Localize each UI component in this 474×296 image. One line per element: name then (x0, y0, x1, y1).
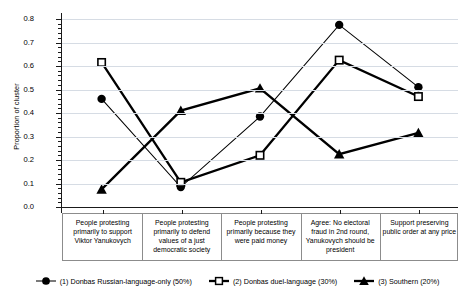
category-label-text: People protesting primarily to defend va… (145, 218, 219, 254)
x-axis-tick (103, 210, 104, 214)
category-label-text: Support preserving public order at any p… (382, 218, 456, 236)
y-axis-minor-tick (58, 169, 62, 170)
y-axis-minor-tick (58, 179, 62, 180)
y-axis-minor-tick (58, 33, 62, 34)
x-axis-category-labels: People protesting primarily to support V… (62, 213, 458, 261)
y-axis-tick (56, 43, 62, 44)
x-axis-category-label: People protesting primarily because they… (221, 214, 300, 260)
category-divider (301, 214, 302, 260)
gridline (62, 43, 458, 44)
gridline (62, 19, 458, 20)
y-axis-tick (56, 184, 62, 185)
y-axis-minor-tick (58, 155, 62, 156)
y-axis-minor-tick (58, 75, 62, 76)
legend-label: (2) Donbas duel-language (30%) (233, 277, 337, 286)
y-axis-tick-label: 0.5 (8, 86, 34, 94)
series-line (102, 25, 419, 187)
chart-container: Proportion of cluster 0.00.10.20.30.40.5… (0, 0, 474, 296)
legend-marker-icon (353, 276, 375, 286)
series-group (102, 88, 419, 189)
category-label-text: People protesting primarily because they… (224, 218, 298, 245)
gridline (62, 66, 458, 67)
y-axis-minor-tick (58, 108, 62, 109)
x-axis-line (61, 207, 458, 208)
data-point-square (177, 179, 184, 186)
y-axis-minor-tick (58, 38, 62, 39)
data-point-circle (42, 277, 50, 285)
y-axis-minor-tick (58, 24, 62, 25)
legend-item: (3) Southern (20%) (353, 276, 439, 286)
y-axis-tick (56, 137, 62, 138)
category-label-text: Agree: No electoral fraud in 2nd round, … (303, 218, 377, 254)
y-axis-tick (56, 90, 62, 91)
y-axis-minor-tick (58, 141, 62, 142)
y-axis-tick-labels: 0.00.10.20.30.40.50.60.70.8 (4, 0, 34, 296)
gridline (62, 160, 458, 161)
y-axis-tick-label: 0.0 (8, 203, 34, 211)
y-axis-tick-label: 0.4 (8, 109, 34, 117)
legend-item: (2) Donbas duel-language (30%) (208, 276, 337, 286)
data-point-triangle (255, 83, 265, 92)
y-axis-minor-tick (58, 80, 62, 81)
legend-item: (1) Donbas Russian-language-only (50%) (35, 276, 192, 286)
y-axis-tick-label: 0.3 (8, 133, 34, 141)
gridline (62, 137, 458, 138)
y-axis-minor-tick (58, 122, 62, 123)
y-axis-minor-tick (58, 61, 62, 62)
gridline (62, 113, 458, 114)
x-axis-category-label: People protesting primarily to support V… (63, 214, 142, 260)
category-label-text: People protesting primarily to support V… (66, 218, 140, 245)
y-axis-minor-tick (58, 94, 62, 95)
y-axis-minor-tick (58, 146, 62, 147)
category-divider (142, 214, 143, 260)
category-divider (221, 214, 222, 260)
gridline (62, 90, 458, 91)
category-divider (380, 214, 381, 260)
x-axis-category-label: People protesting primarily to defend va… (142, 214, 221, 260)
y-axis-minor-tick (58, 127, 62, 128)
x-axis-category-label: Agree: No electoral fraud in 2nd round, … (301, 214, 380, 260)
y-axis-tick-label: 0.7 (8, 39, 34, 47)
y-axis-tick-label: 0.2 (8, 156, 34, 164)
y-axis-tick-label: 0.8 (8, 15, 34, 23)
legend-marker-icon (208, 276, 230, 286)
y-axis-minor-tick (58, 104, 62, 105)
x-axis-tick (419, 210, 420, 214)
x-axis-tick (340, 210, 341, 214)
y-axis-minor-tick (58, 99, 62, 100)
y-axis-minor-tick (58, 28, 62, 29)
y-axis-tick-label: 0.6 (8, 62, 34, 70)
legend-label: (1) Donbas Russian-language-only (50%) (60, 277, 192, 286)
x-axis-category-label: Support preserving public order at any p… (380, 214, 459, 260)
data-point-square (336, 56, 343, 63)
series-line (102, 88, 419, 189)
y-axis-tick (56, 113, 62, 114)
series-line (102, 60, 419, 182)
x-axis-tick (182, 210, 183, 214)
chart-legend: (1) Donbas Russian-language-only (50%)(2… (0, 272, 474, 290)
series-group (102, 25, 419, 187)
series-markers (96, 83, 423, 194)
y-axis-minor-tick (58, 132, 62, 133)
y-axis-minor-tick (58, 118, 62, 119)
y-axis-minor-tick (58, 52, 62, 53)
y-axis-tick (56, 19, 62, 20)
data-point-square (256, 152, 263, 159)
y-axis-minor-tick (58, 151, 62, 152)
data-point-square (415, 93, 422, 100)
series-markers (97, 21, 422, 192)
y-axis-minor-tick (58, 165, 62, 166)
data-point-circle (97, 95, 105, 103)
series-group (102, 60, 419, 182)
gridline (62, 184, 458, 185)
data-point-square (216, 278, 223, 285)
plot-area (62, 19, 458, 207)
y-axis-minor-tick (58, 71, 62, 72)
y-axis-minor-tick (58, 202, 62, 203)
y-axis-minor-tick (58, 174, 62, 175)
y-axis-tick (56, 66, 62, 67)
y-axis-minor-tick (58, 188, 62, 189)
y-axis-minor-tick (58, 85, 62, 86)
y-axis-minor-tick (58, 47, 62, 48)
legend-label: (3) Southern (20%) (378, 277, 439, 286)
